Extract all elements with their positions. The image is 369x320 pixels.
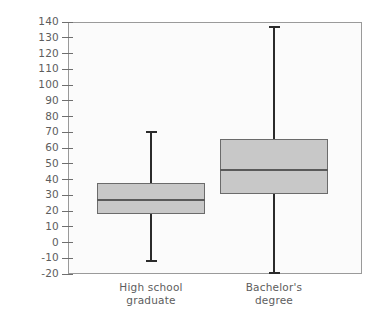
box-iqr-rect — [220, 139, 328, 194]
y-tick-mark — [62, 116, 73, 117]
y-tick-label: 100 — [19, 79, 59, 90]
y-tick-label: 10 — [19, 221, 59, 232]
x-category-label: Bachelor'sdegree — [199, 281, 349, 307]
y-tick-label: 80 — [19, 111, 59, 122]
y-tick-label: 20 — [19, 205, 59, 216]
y-tick-mark — [62, 211, 73, 212]
y-tick-label: 90 — [19, 95, 59, 106]
y-tick-mark — [62, 148, 73, 149]
y-tick-mark — [62, 100, 73, 101]
y-tick-label: 110 — [19, 63, 59, 74]
y-tick-label: 120 — [19, 48, 59, 59]
y-tick-mark — [62, 53, 73, 54]
upper-whisker-cap — [269, 26, 280, 28]
upper-whisker-cap — [146, 131, 157, 133]
y-tick-label: 60 — [19, 142, 59, 153]
y-tick-label: -20 — [19, 268, 59, 279]
y-tick-mark — [62, 163, 73, 164]
y-tick-label: -10 — [19, 252, 59, 263]
y-tick-mark — [62, 258, 73, 259]
y-tick-label: 40 — [19, 174, 59, 185]
lower-whisker-line — [273, 194, 275, 274]
y-tick-label: 50 — [19, 158, 59, 169]
y-tick-mark — [62, 37, 73, 38]
x-category-label-line2: degree — [199, 294, 349, 307]
y-tick-mark — [62, 85, 73, 86]
y-tick-mark — [62, 132, 73, 133]
boxplot-chart: Income, thousands of dollars 14013012011… — [0, 0, 369, 320]
y-tick-label: 30 — [19, 189, 59, 200]
upper-whisker-line — [273, 27, 275, 139]
x-category-label-line1: Bachelor's — [199, 281, 349, 294]
y-tick-label: 0 — [19, 237, 59, 248]
lower-whisker-cap — [146, 260, 157, 262]
y-tick-mark — [62, 226, 73, 227]
y-tick-label: 140 — [19, 16, 59, 27]
y-tick-mark — [62, 179, 73, 180]
median-line — [97, 199, 205, 201]
y-tick-label: 70 — [19, 126, 59, 137]
y-tick-mark — [62, 195, 73, 196]
y-tick-mark — [62, 69, 73, 70]
y-tick-mark — [62, 274, 73, 275]
lower-whisker-cap — [269, 272, 280, 274]
upper-whisker-line — [150, 132, 152, 182]
y-tick-mark — [62, 242, 73, 243]
y-tick-mark — [62, 22, 73, 23]
y-tick-label: 130 — [19, 32, 59, 43]
lower-whisker-line — [150, 214, 152, 261]
median-line — [220, 169, 328, 171]
